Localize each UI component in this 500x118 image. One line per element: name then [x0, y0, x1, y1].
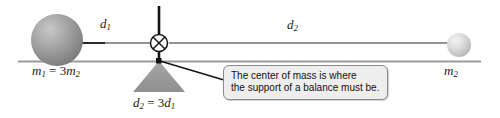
distance-relation-label: d2 = 3d1: [133, 96, 175, 111]
distance-label-d2: d2: [287, 18, 298, 33]
callout-line-2: the support of a balance must be.: [231, 82, 381, 94]
crossed-circle-icon: [151, 35, 168, 52]
distance-label-d1: d1: [100, 17, 111, 32]
large-sphere-icon: [31, 14, 83, 66]
center-of-mass-diagram: d1 d2 m1 = 3m2 m2 d2 = 3d1 The center of…: [0, 0, 500, 118]
mass-label-left: m1 = 3m2: [32, 64, 80, 79]
callout-box: The center of mass is where the support …: [223, 65, 388, 100]
callout-line-1: The center of mass is where: [231, 70, 381, 82]
diagram-canvas: [0, 0, 500, 118]
small-sphere-icon: [447, 33, 471, 57]
mass-label-right: m2: [444, 64, 458, 79]
